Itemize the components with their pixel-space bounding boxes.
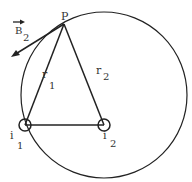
b2-arrowhead-icon [11,50,20,57]
label-b-sub: 2 [23,32,29,43]
label-i1: i [10,129,14,142]
label-r1-sub: 1 [49,80,55,91]
label-r1: r [42,68,48,81]
field-circle [21,12,187,178]
vector-arrowhead-icon [20,20,25,25]
label-r2: r [96,64,102,77]
magnetic-field-diagram: P B 2 r 1 r 2 i 1 i 2 [0,0,192,182]
label-i2: i [103,129,107,142]
label-b: B [15,25,22,36]
label-r2-sub: 2 [103,71,109,82]
label-p: P [61,10,69,23]
label-i1-sub: 1 [17,140,23,151]
label-i2-sub: 2 [110,138,116,149]
